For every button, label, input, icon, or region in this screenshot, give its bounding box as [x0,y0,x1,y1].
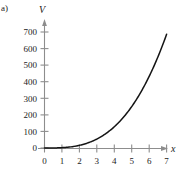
chart-canvas: a) 0 100 200 300 400 500 600 700 [0,0,180,170]
x-tick-label-5: 5 [129,156,134,166]
x-tick-label-2: 2 [77,156,82,166]
y-tick-label-300: 300 [24,94,38,104]
y-tick-label-100: 100 [24,127,38,137]
y-tick-label-400: 400 [24,77,38,87]
x-axis-label: x [170,143,176,154]
x-tick-label-7: 7 [164,156,169,166]
x-tick-label-4: 4 [112,156,117,166]
data-curve-V [45,34,167,148]
x-tick-label-3: 3 [95,156,100,166]
panel-label: a) [1,3,8,13]
y-axis-arrow-icon [42,19,47,26]
y-axis-label: V [39,4,47,15]
y-tick-label-0: 0 [33,143,38,153]
y-tick-label-500: 500 [24,60,38,70]
y-tick-label-600: 600 [24,44,38,54]
x-tick-label-1: 1 [60,156,65,166]
figure-panel: a) 0 100 200 300 400 500 600 700 [0,0,180,170]
x-tick-label-0: 0 [42,156,47,166]
y-tick-label-200: 200 [24,110,38,120]
x-tick-label-6: 6 [147,156,152,166]
y-tick-label-700: 700 [24,27,38,37]
